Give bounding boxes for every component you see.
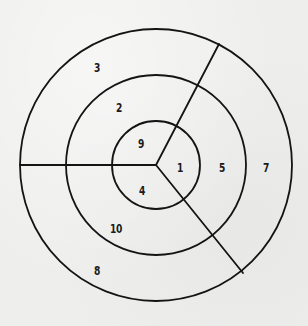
region-label-inner-lower-left: 4: [138, 184, 146, 197]
region-label-outer-right: 7: [262, 161, 270, 174]
region-label-outer-upper-left: 3: [93, 61, 101, 74]
label-text: 2: [116, 101, 122, 114]
label-text: 4: [139, 184, 145, 197]
diagram-canvas: 3 2 9 1 5 7 4 10 8: [0, 0, 308, 326]
region-label-middle-right: 5: [218, 161, 226, 174]
label-text: 10: [110, 222, 122, 235]
region-label-middle-lower-left: 10: [108, 222, 123, 235]
region-label-outer-lower-left: 8: [93, 264, 101, 277]
region-label-inner-upper-left: 9: [137, 137, 145, 150]
label-text: 1: [177, 161, 183, 174]
label-text: 7: [263, 161, 269, 174]
spoke-upper-right: [156, 44, 219, 165]
label-text: 3: [94, 61, 100, 74]
region-label-middle-upper-left: 2: [115, 101, 123, 114]
label-text: 9: [138, 137, 144, 150]
spoke-lower-right: [156, 165, 243, 273]
region-label-inner-right: 1: [176, 161, 184, 174]
label-text: 5: [219, 161, 225, 174]
label-text: 8: [94, 264, 100, 277]
